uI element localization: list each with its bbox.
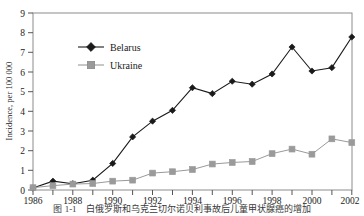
y-tick-label: 5 [20, 87, 25, 97]
y-tick-label: 0 [20, 186, 25, 196]
y-tick-label: 3 [20, 127, 25, 137]
data-point-marker [170, 169, 176, 175]
data-point-marker [309, 151, 315, 157]
figure-container: 9 8 7 6 5 4 3 2 1 0 Incidence, per 100 0… [0, 0, 364, 216]
data-point-marker [209, 161, 215, 167]
y-axis-ticks [28, 13, 33, 190]
y-tick-label: 1 [20, 166, 25, 176]
y-tick-label: 6 [20, 68, 25, 78]
data-point-marker [329, 136, 335, 142]
figure-caption: 图 1-1 白俄罗斯和乌克兰切尔诺贝利事故后儿童甲状腺癌的增加 [0, 203, 364, 216]
data-point-marker [110, 178, 116, 184]
data-point-marker [190, 167, 196, 173]
data-point-marker [70, 181, 76, 187]
data-point-marker [229, 160, 235, 166]
incidence-line-chart: 9 8 7 6 5 4 3 2 1 0 Incidence, per 100 0… [0, 0, 364, 216]
plot-frame [33, 13, 352, 190]
data-point-marker [289, 146, 295, 152]
data-point-marker [249, 159, 255, 165]
x-axis-ticks [33, 190, 352, 195]
y-tick-label: 2 [20, 146, 25, 156]
data-point-marker [130, 177, 136, 183]
legend-marker-square-icon [87, 61, 94, 68]
y-tick-label: 9 [20, 9, 25, 19]
y-axis-tick-labels: 9 8 7 6 5 4 3 2 1 0 [20, 9, 25, 196]
legend-label-belarus: Belarus [110, 42, 141, 53]
data-point-marker [30, 185, 36, 191]
data-point-marker [150, 170, 156, 176]
data-point-marker [349, 140, 355, 146]
data-point-marker [90, 181, 96, 187]
y-tick-label: 7 [20, 48, 25, 58]
legend-label-ukraine: Ukraine [110, 60, 143, 71]
y-tick-label: 4 [20, 107, 25, 117]
data-point-marker [269, 151, 275, 157]
legend-entry-ukraine: Ukraine [78, 60, 143, 71]
data-point-marker [50, 183, 56, 189]
y-tick-label: 8 [20, 28, 25, 38]
y-axis-title: Incidence, per 100 000 [4, 62, 14, 141]
